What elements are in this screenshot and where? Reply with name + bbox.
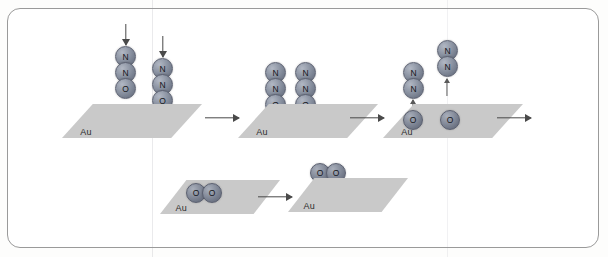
atom-o: O (403, 110, 423, 130)
atom-o: O (115, 78, 136, 99)
au-label: Au (80, 127, 91, 137)
atom-o: O (202, 183, 222, 203)
atom-o: O (440, 110, 460, 130)
au-label: Au (304, 201, 315, 211)
process-arrow-step3-exit (497, 113, 531, 123)
au-surface-slab: Au (62, 104, 202, 138)
incoming-arrow-left (121, 24, 131, 45)
atom-n: N (437, 56, 458, 77)
au-label: Au (176, 203, 187, 213)
n2-desorption-arrow-right (442, 79, 452, 96)
atom-n: N (403, 78, 424, 99)
au-surface-slab: Au (288, 178, 408, 212)
process-arrow-step2-step3 (350, 113, 384, 123)
process-arrow-step1-step2 (205, 113, 239, 123)
au-label: Au (256, 127, 267, 137)
process-arrow-step4-step5 (258, 192, 292, 202)
incoming-arrow-right (158, 36, 168, 57)
